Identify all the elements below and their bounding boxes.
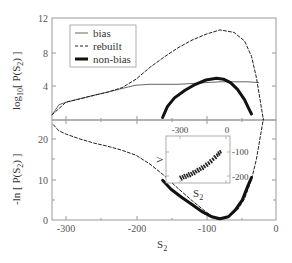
xtick-neg100: -100 bbox=[198, 223, 216, 234]
legend: bias rebuilt non-bias bbox=[70, 25, 136, 67]
legend-label-rebuilt: rebuilt bbox=[93, 40, 122, 52]
xtick-0: 0 bbox=[274, 223, 279, 234]
top-ytick-8: 8 bbox=[43, 48, 48, 59]
free-energy-chart: 12 8 4 20 10 0 -300 -200 -100 0 S2 log10… bbox=[0, 0, 292, 263]
inset-ytick-neg100: -100 bbox=[232, 147, 249, 157]
bottom-ytick-0: 0 bbox=[43, 215, 48, 226]
top-ytick-12: 12 bbox=[38, 13, 48, 24]
bottom-y-axis-label: -ln [ P(S2) ] bbox=[10, 154, 25, 205]
legend-label-bias: bias bbox=[93, 27, 111, 39]
inset-y-label: V bbox=[155, 156, 165, 163]
bottom-ytick-10: 10 bbox=[38, 175, 48, 186]
legend-label-non-bias: non-bias bbox=[93, 53, 131, 65]
inset-ytick-neg200: -200 bbox=[232, 172, 249, 182]
top-y-axis-label: log10[ P(S2) ] bbox=[10, 52, 25, 110]
inset-frame bbox=[166, 136, 230, 183]
top-ytick-4: 4 bbox=[43, 81, 48, 92]
bottom-ytick-20: 20 bbox=[38, 134, 48, 145]
inset-x-label: S2 bbox=[193, 187, 203, 202]
inset-xtick-0: 0 bbox=[225, 125, 230, 135]
x-axis-label: S2 bbox=[157, 238, 167, 253]
bottom-series-rebuilt bbox=[53, 119, 263, 219]
xtick-neg300: -300 bbox=[57, 223, 75, 234]
inset-plot: -300 0 -100 -200 V S2 bbox=[155, 125, 249, 202]
xtick-neg200: -200 bbox=[128, 223, 146, 234]
inset-xtick-neg300: -300 bbox=[172, 125, 189, 135]
bottom-panel-frame bbox=[52, 120, 276, 220]
